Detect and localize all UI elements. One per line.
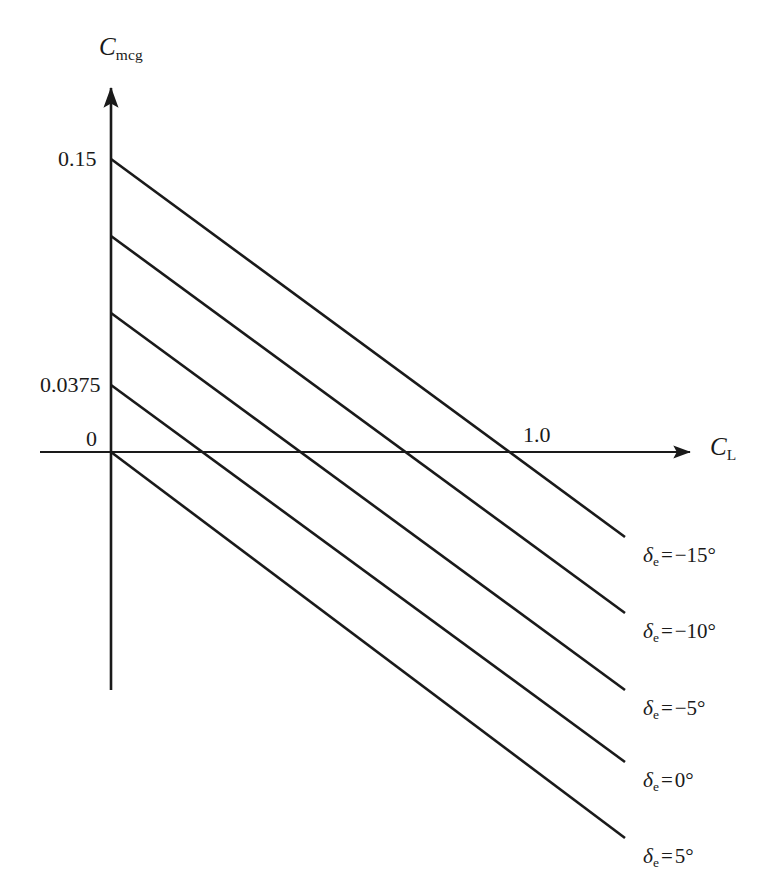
curve-label-value: 0° <box>675 768 694 792</box>
curve-label-value: −15° <box>675 543 716 567</box>
curve-label-equals: = <box>659 768 675 792</box>
y-axis-label-symbol: C <box>99 33 116 60</box>
data-line-de-minus15 <box>111 159 625 537</box>
curve-label-value: 5° <box>675 844 694 868</box>
x-axis-label: CL <box>710 434 736 462</box>
curve-label-value: −5° <box>675 696 706 720</box>
curve-label-de-0: δe=0° <box>643 770 694 793</box>
x-axis-label-symbol: C <box>710 433 727 460</box>
data-line-de-5 <box>111 452 625 838</box>
curve-label-equals: = <box>659 844 675 868</box>
figure-container: Cmcg CL 0.15 0.0375 0 1.0 δe=−15° δe=−10… <box>0 0 760 891</box>
curve-label-equals: = <box>659 543 675 567</box>
curve-label-de-minus5: δe=−5° <box>643 698 706 721</box>
y-tick-label-00375: 0.0375 <box>40 374 101 396</box>
x-tick-label-10: 1.0 <box>523 424 551 446</box>
curve-label-de-5: δe=5° <box>643 846 694 869</box>
data-line-de-minus5 <box>111 313 625 690</box>
curve-label-value: −10° <box>675 619 716 643</box>
plot-canvas <box>0 0 760 891</box>
y-axis-label: Cmcg <box>99 34 143 62</box>
curve-label-de-minus15: δe=−15° <box>643 545 716 568</box>
curve-label-symbol: δ <box>643 543 653 567</box>
y-tick-label-0: 0 <box>86 428 97 450</box>
curve-label-symbol: δ <box>643 619 653 643</box>
curve-label-symbol: δ <box>643 696 653 720</box>
curve-label-de-minus10: δe=−10° <box>643 621 716 644</box>
curve-label-symbol: δ <box>643 768 653 792</box>
y-axis-label-subscript: mcg <box>116 46 143 63</box>
curve-label-equals: = <box>659 696 675 720</box>
y-tick-label-015: 0.15 <box>58 148 97 170</box>
curve-label-symbol: δ <box>643 844 653 868</box>
curve-label-equals: = <box>659 619 675 643</box>
x-axis-label-subscript: L <box>727 446 737 463</box>
